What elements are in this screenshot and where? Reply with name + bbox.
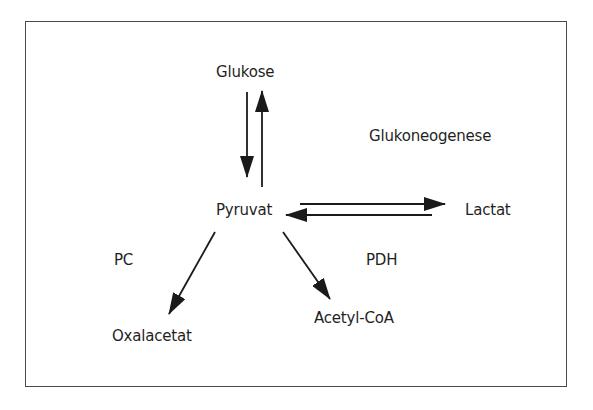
node-oxalacetat: Oxalacetat: [112, 327, 192, 345]
arrow-pyruvat-to-oxalacetat: [169, 232, 215, 314]
node-acetyl-coa: Acetyl-CoA: [314, 309, 394, 327]
node-lactat: Lactat: [465, 201, 511, 219]
arrow-pyruvat-to-acetyl-coa: [283, 232, 330, 299]
node-glukose: Glukose: [216, 63, 274, 81]
node-pyruvat: Pyruvat: [216, 201, 272, 219]
annotation-glukoneogenese: Glukoneogenese: [369, 127, 491, 145]
annotation-pc: PC: [114, 251, 133, 269]
annotation-pdh: PDH: [366, 251, 397, 269]
